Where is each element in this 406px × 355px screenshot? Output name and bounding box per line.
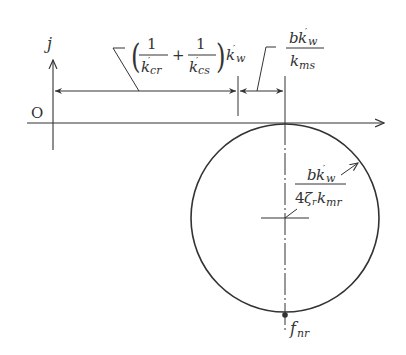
radius-arrow	[341, 163, 358, 175]
svg-text:k: k	[290, 52, 299, 70]
label-natural-frequency: f nr	[289, 319, 310, 340]
svg-text:+: +	[172, 46, 185, 64]
leader-circle-offset	[257, 47, 276, 91]
label-origin: O	[31, 104, 43, 122]
label-j: j	[44, 34, 52, 53]
svg-text:cr: cr	[150, 64, 162, 77]
svg-text:ms: ms	[299, 59, 315, 72]
leader-center	[285, 209, 297, 218]
svg-text:1: 1	[196, 35, 206, 53]
svg-text:w: w	[236, 52, 246, 65]
label-circle-offset: b k ′ w k ms	[286, 26, 324, 72]
svg-text:cs: cs	[198, 64, 210, 77]
svg-text:w: w	[326, 172, 336, 185]
svg-text:): )	[216, 37, 226, 76]
label-offset-term: ( 1 k ′ cr + 1 k ′ cs ) k ′ w	[131, 35, 246, 77]
natural-frequency-point	[282, 312, 288, 318]
svg-text:mr: mr	[326, 196, 342, 209]
nyquist-circle-diagram: j O ( 1 k ′ cr + 1 k ′ cs ) k ′ w b k ′ …	[0, 0, 406, 355]
svg-text:1: 1	[147, 35, 157, 53]
svg-text:w: w	[308, 35, 318, 48]
svg-text:nr: nr	[297, 327, 310, 340]
svg-text:(: (	[131, 37, 141, 76]
label-radius: b k ′ w 4 ζ r k mr	[295, 163, 346, 209]
svg-text:k: k	[317, 189, 326, 207]
